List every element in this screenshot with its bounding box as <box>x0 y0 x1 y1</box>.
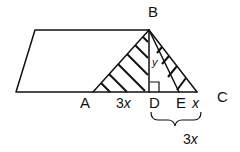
label-B: B <box>148 3 158 20</box>
brace-DC <box>151 112 201 126</box>
label-E: E <box>176 94 186 111</box>
parallelogram-outline <box>16 30 197 92</box>
label-EC-length: x <box>191 95 200 111</box>
right-hatching <box>157 47 186 90</box>
label-DC-brace-length: 3x <box>183 131 199 147</box>
left-hatching <box>101 37 148 92</box>
geometry-diagram: B A D E C 3x x 3x y <box>0 0 240 152</box>
label-AD-length: 3x <box>116 95 132 111</box>
label-A: A <box>80 94 90 111</box>
label-D: D <box>149 94 160 111</box>
label-C: C <box>217 88 228 105</box>
label-angle-y: y <box>151 56 159 68</box>
right-angle-marker <box>150 82 159 92</box>
